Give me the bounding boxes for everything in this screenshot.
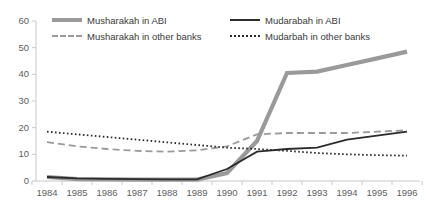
series-line (47, 52, 407, 180)
y-axis-tick-label: 60 (7, 16, 29, 26)
x-axis-tick-label: 1986 (90, 188, 124, 198)
x-axis-tick-label: 1989 (180, 188, 214, 198)
x-axis-tick-label: 1991 (240, 188, 274, 198)
axis-layer (32, 21, 422, 185)
y-axis-tick-label: 50 (7, 43, 29, 53)
x-axis-tick-label: 1985 (60, 188, 94, 198)
line-chart: Musharakah in ABI Mudarabah in ABI Musha… (0, 0, 426, 210)
y-axis-tick-label: 20 (7, 123, 29, 133)
x-axis-tick-label: 1992 (270, 188, 304, 198)
y-axis-tick-label: 30 (7, 96, 29, 106)
series-line (47, 132, 407, 156)
x-axis-tick-label: 1996 (390, 188, 424, 198)
x-axis-tick-label: 1993 (300, 188, 334, 198)
x-axis-tick-label: 1994 (330, 188, 364, 198)
plot-svg (0, 0, 426, 210)
x-axis-tick-label: 1984 (30, 188, 64, 198)
y-axis-tick-label: 40 (7, 69, 29, 79)
x-axis-tick-label: 1988 (150, 188, 184, 198)
series-layer (47, 52, 407, 180)
y-axis-tick-label: 10 (7, 149, 29, 159)
x-axis-tick-label: 1987 (120, 188, 154, 198)
y-axis-tick-label: 0 (7, 176, 29, 186)
x-axis-tick-label: 1990 (210, 188, 244, 198)
x-axis-tick-label: 1995 (360, 188, 394, 198)
plot-area: 0102030405060 19841985198619871988198919… (0, 0, 426, 210)
